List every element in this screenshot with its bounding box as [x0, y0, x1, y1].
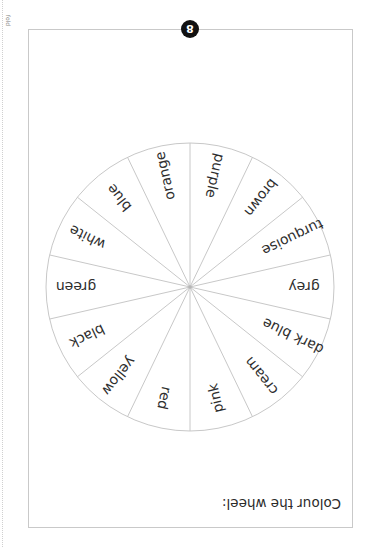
instruction-text: Colour the wheel: [222, 496, 341, 512]
colour-wheel[interactable]: purplebrownturquoisegreydark bluecreampi… [0, 0, 369, 547]
wheel-segment-label: green [56, 279, 96, 295]
wheel-segment-label: grey [288, 279, 319, 295]
wheel-center-dot [188, 285, 192, 289]
